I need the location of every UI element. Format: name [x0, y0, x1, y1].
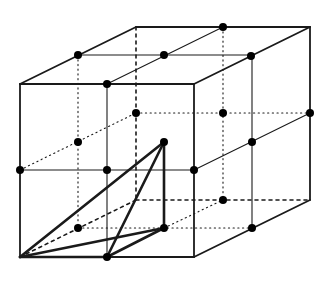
lattice-point — [132, 109, 140, 117]
lattice-point — [160, 224, 168, 232]
lattice-point — [219, 109, 227, 117]
tetrahedron-edge-AC — [20, 228, 164, 257]
diagram-canvas — [0, 0, 330, 281]
lattice-point — [103, 166, 111, 174]
lattice-point — [248, 224, 256, 232]
lattice-point — [219, 23, 227, 31]
lattice-point — [306, 109, 314, 117]
lattice-point — [160, 138, 168, 146]
lattice-point — [74, 224, 82, 232]
cube-diagram — [0, 0, 330, 281]
lattice-point — [219, 196, 227, 204]
lattice-point — [190, 166, 198, 174]
lattice-point — [74, 51, 82, 59]
lattice-point — [103, 253, 111, 261]
lattice-point — [248, 138, 256, 146]
lattice-point — [74, 138, 82, 146]
lattice-point — [247, 52, 255, 60]
lattice-point — [160, 51, 168, 59]
lattice-point — [103, 80, 111, 88]
lattice-point — [16, 166, 24, 174]
tetrahedron-edge-BD — [107, 142, 164, 257]
